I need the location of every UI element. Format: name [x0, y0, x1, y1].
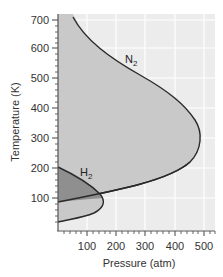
y-tick-label: 200 — [31, 162, 49, 174]
y-tick-label: 600 — [31, 42, 49, 54]
y-tick-label: 100 — [31, 192, 49, 204]
n2-label-sub: 2 — [133, 59, 138, 68]
h2-label-sub: 2 — [88, 172, 93, 181]
y-axis-title: Temperature (K) — [9, 82, 21, 161]
x-axis-title: Pressure (atm) — [103, 257, 176, 269]
h2-label-main: H — [80, 166, 88, 178]
y-tick-label: 700 — [31, 14, 49, 26]
phase-chart: 700 600 500 400 300 200 100 100 200 300 … — [0, 0, 223, 277]
y-tick-labels: 700 600 500 400 300 200 100 — [31, 14, 49, 204]
x-tick-label: 300 — [136, 240, 154, 252]
x-tick-labels: 100 200 300 400 500 — [78, 240, 213, 252]
n2-label-main: N — [125, 53, 133, 65]
x-tick-label: 100 — [78, 240, 96, 252]
y-tick-label: 300 — [31, 132, 49, 144]
y-tick-label: 500 — [31, 72, 49, 84]
x-tick-label: 500 — [195, 240, 213, 252]
x-tick-label: 200 — [107, 240, 125, 252]
y-major-ticks — [52, 20, 58, 198]
x-tick-label: 400 — [166, 240, 184, 252]
y-tick-label: 400 — [31, 102, 49, 114]
